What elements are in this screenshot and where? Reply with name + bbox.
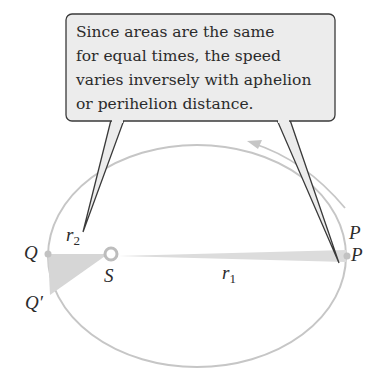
point-Q [45,251,52,258]
sun-icon [105,248,117,260]
direction-arrowhead-icon [247,140,262,149]
label-r2: r2 [66,224,80,249]
callout-line: varies inversely with aphelion [76,68,336,92]
label-P: P [351,244,363,266]
callout-line: for equal times, the speed [76,44,336,68]
point-P [344,253,351,260]
label-S: S [104,265,114,287]
label-Q-prime: Q′ [25,292,43,314]
label-Q: Q [24,242,38,264]
callout-pointer-left [83,120,124,232]
callout-line: Since areas are the same [76,20,336,44]
area-wedge-Q [48,254,108,295]
callout-line: or perihelion distance. [76,92,336,116]
label-P-top: P [349,222,361,244]
area-wedge-P [118,250,346,262]
label-r1: r1 [222,262,236,287]
callout-text: Since areas are the same for equal times… [76,20,336,116]
